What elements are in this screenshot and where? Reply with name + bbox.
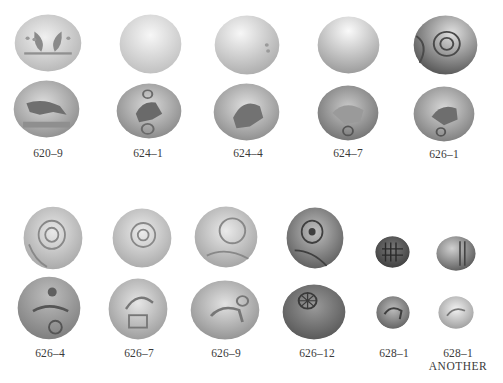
- coin-reverse-image: [13, 80, 80, 138]
- coin-reverse-image: [17, 276, 81, 340]
- coin-label: 624–4: [222, 147, 274, 160]
- coin-obverse-image: [375, 236, 410, 268]
- coin-obverse-image: [14, 14, 82, 72]
- coin-reverse-image: [190, 280, 260, 340]
- coin-label: 626–12: [289, 347, 345, 360]
- coin-reverse-image: [317, 85, 379, 141]
- coin-reverse-image: [413, 86, 475, 142]
- coin-label: 624–1: [122, 147, 174, 160]
- coin-label: 626–1: [418, 148, 470, 161]
- coin-reverse-image: [376, 296, 410, 329]
- coin-obverse-image: [317, 16, 380, 74]
- coin-reverse-image: [108, 278, 168, 340]
- coin-label: 626–4: [24, 347, 76, 360]
- coin-label-sublabel: ANOTHER: [425, 360, 491, 373]
- coin-label: 626–9: [200, 347, 252, 360]
- coin-label: 628–1: [372, 347, 416, 360]
- coin-obverse-image: [436, 236, 476, 271]
- coin-label-number: 628–1: [443, 347, 473, 359]
- coin-obverse-image: [214, 15, 280, 75]
- coin-reverse-image: [213, 83, 280, 141]
- coin-label: 620–9: [22, 147, 74, 160]
- coin-obverse-image: [119, 14, 182, 74]
- coin-obverse-image: [286, 207, 344, 269]
- coin-label: 626–7: [113, 347, 165, 360]
- coin-reverse-image: [438, 296, 474, 329]
- coin-reverse-image: [116, 83, 182, 139]
- coin-obverse-image: [112, 208, 172, 268]
- coin-obverse-image: [194, 206, 258, 268]
- coin-reverse-image: [282, 284, 346, 340]
- coin-obverse-image: [413, 15, 478, 75]
- coin-label: 628–1 ANOTHER: [425, 347, 491, 373]
- coin-label: 624–7: [322, 147, 374, 160]
- coin-obverse-image: [23, 206, 83, 270]
